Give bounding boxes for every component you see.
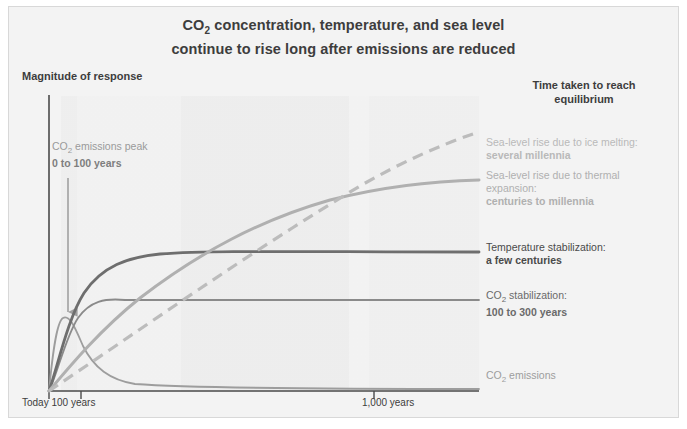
curve-co2-emissions [49, 317, 479, 391]
curve-sea-level-ice-melting [49, 133, 476, 391]
curve-sea-level-thermal-expansion [49, 180, 479, 391]
chart-curves-layer [0, 0, 687, 429]
climate-response-figure: CO2 concentration, temperature, and sea … [0, 0, 687, 429]
